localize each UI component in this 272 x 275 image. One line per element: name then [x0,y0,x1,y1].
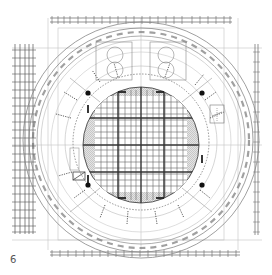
left-fixture [70,148,85,180]
left-scaffold [12,44,36,234]
central-roof-grid [70,78,212,212]
architectural-plan-drawing [0,0,272,275]
bottom-scaffold [50,250,240,257]
right-fixture-box [210,105,224,123]
figure-number-label: 6 [10,254,16,265]
